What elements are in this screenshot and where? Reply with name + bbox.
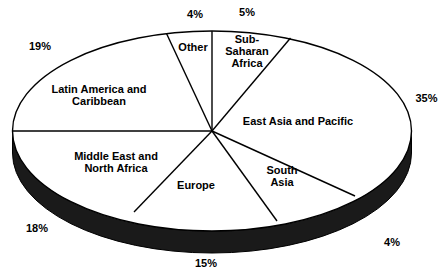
pct-label-south-asia: 4%: [378, 236, 406, 248]
slice-label-sub-saharan-africa: Sub- Saharan Africa: [216, 33, 278, 69]
pct-label-sub-saharan-africa: 5%: [233, 6, 261, 18]
slice-label-other: Other: [172, 41, 214, 53]
pct-label-middle-east-and-north-africa: 18%: [20, 222, 54, 234]
pct-label-east-asia-and-pacific: 35%: [410, 92, 443, 104]
slice-label-latin-america-and-caribbean: Latin America and Caribbean: [32, 83, 166, 107]
slice-label-south-asia: South Asia: [256, 164, 308, 188]
pct-label-europe: 15%: [189, 257, 223, 269]
pct-label-latin-america-and-caribbean: 19%: [23, 40, 57, 52]
slice-label-middle-east-and-north-africa: Middle East and North Africa: [56, 150, 176, 174]
pie-chart: 4% 5% 19% 35% 18% 4% 15% Other Sub- Saha…: [0, 0, 443, 278]
slice-label-europe: Europe: [166, 179, 226, 191]
pct-label-other: 4%: [181, 8, 209, 20]
slice-label-east-asia-and-pacific: East Asia and Pacific: [236, 115, 360, 127]
